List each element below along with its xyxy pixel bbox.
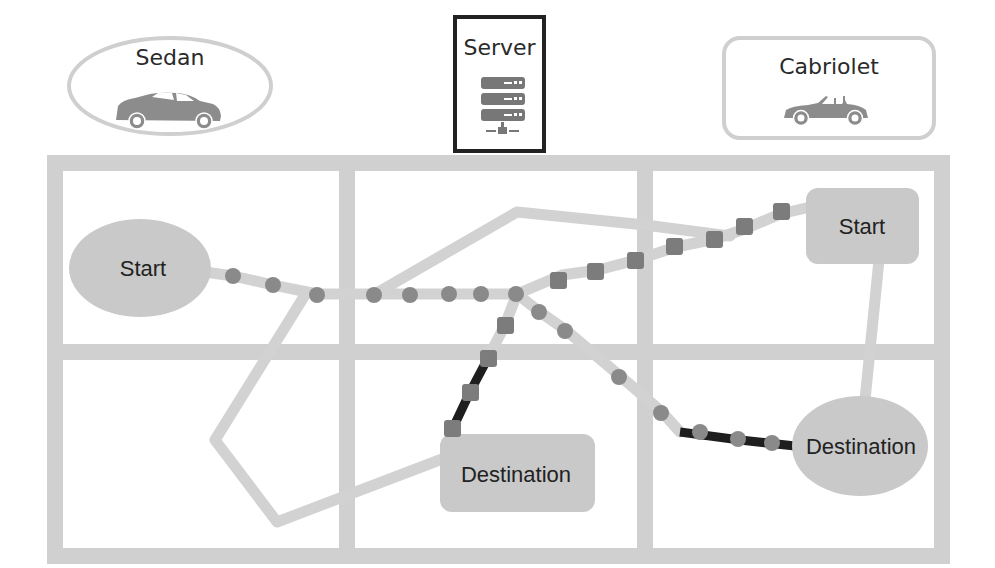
sedan-marker [557,323,573,339]
sedan-marker [531,304,547,320]
cabriolet-marker [666,238,683,255]
sedan-marker [225,268,241,284]
node-cabriolet-start-label: Start [839,214,885,239]
sedan-marker [265,277,281,293]
sedan-marker [692,424,708,440]
node-sedan-start: Start [69,219,211,317]
sedan-marker [309,287,325,303]
node-cabriolet-destination-label: Destination [461,462,571,487]
legend-server-label: Server [463,35,536,60]
cabriolet-marker [736,218,753,235]
cabriolet-marker [587,263,604,280]
cabriolet-marker [497,317,514,334]
legend-cabriolet-label: Cabriolet [779,54,879,79]
cabriolet-marker [773,203,790,220]
route-diagram: Sedan Server Cabriolet [0,0,995,568]
legend-sedan-label: Sedan [136,45,205,70]
cabriolet-route-markers [444,203,790,437]
sedan-marker [402,287,418,303]
cabriolet-marker [706,231,723,248]
node-sedan-destination: Destination [792,396,928,496]
sedan-marker [473,286,489,302]
cabriolet-marker [480,350,497,367]
sedan-marker [730,431,746,447]
legend-sedan: Sedan [69,38,271,134]
cabriolet-marker [444,420,461,437]
node-cabriolet-start: Start [806,188,919,264]
cabriolet-marker [627,252,644,269]
cabriolet-marker [550,272,567,289]
sedan-marker [653,405,669,421]
node-sedan-destination-label: Destination [806,434,916,459]
legend-cabriolet: Cabriolet [724,38,934,138]
sedan-marker [441,286,457,302]
sedan-marker [366,287,382,303]
sedan-marker [611,369,627,385]
sedan-marker [508,286,524,302]
node-sedan-start-label: Start [120,256,166,281]
sedan-marker [764,435,780,451]
cabriolet-marker [462,384,479,401]
node-cabriolet-destination: Destination [440,434,595,512]
legend-server: Server [455,17,544,151]
